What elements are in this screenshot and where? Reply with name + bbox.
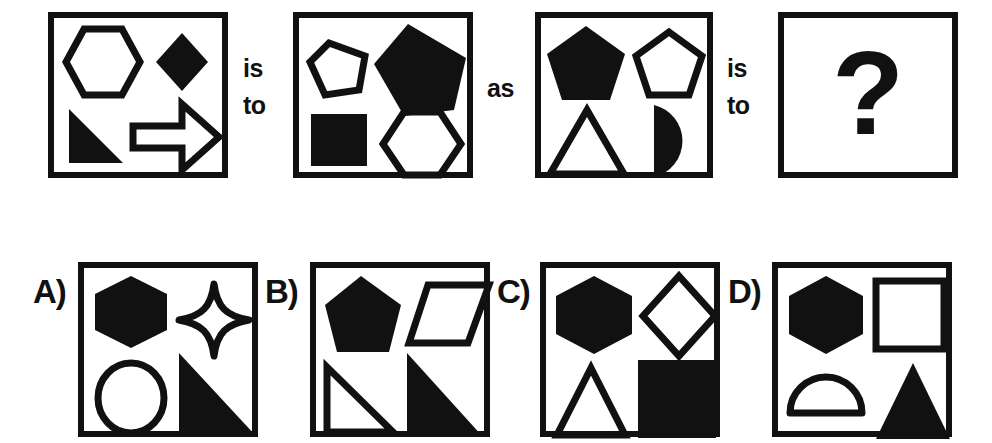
option-a-label: A) xyxy=(33,275,66,308)
shape-hexagon-solid xyxy=(550,272,638,358)
shape-hexagon-outline xyxy=(377,108,467,180)
option-b-label: B) xyxy=(265,275,298,308)
shape-arrow-right-outline xyxy=(126,96,226,178)
connector-line-1: is xyxy=(727,50,771,87)
prompt-panel-4-unknown: ? xyxy=(778,12,958,178)
option-d-label: D) xyxy=(728,275,761,308)
connector-line-2: to xyxy=(727,87,771,124)
shape-pentagon-solid xyxy=(543,22,629,104)
connector-is-to-2: is to xyxy=(727,50,771,124)
shape-hexagon-solid xyxy=(782,272,870,358)
question-mark: ? xyxy=(784,34,952,152)
option-b[interactable] xyxy=(310,262,490,437)
connector-as: as xyxy=(487,70,531,107)
shape-pentagon-solid xyxy=(369,20,473,120)
shape-semicircle-solid xyxy=(633,102,709,180)
connector-line-2: to xyxy=(243,87,287,124)
shape-triangle-outline xyxy=(543,104,631,180)
option-d[interactable] xyxy=(772,262,952,437)
prompt-panel-2 xyxy=(293,12,473,178)
shape-diamond-outline xyxy=(636,270,722,362)
shape-square-solid xyxy=(301,106,377,174)
shape-semicircle-outline xyxy=(782,362,870,428)
shape-pentagon-outline xyxy=(629,24,709,104)
shape-hexagon-outline xyxy=(60,24,146,100)
shape-pentagon-solid xyxy=(320,272,406,356)
shape-right-triangle-outline xyxy=(318,360,402,440)
shape-square-solid xyxy=(632,356,722,442)
shape-diamond-solid xyxy=(146,26,218,98)
shape-parallelogram-outline xyxy=(404,278,494,350)
shape-right-triangle-solid xyxy=(58,100,134,172)
connector-line-1: is xyxy=(243,50,287,87)
shape-pentagon-outline xyxy=(301,36,375,102)
shape-square-outline xyxy=(868,274,952,356)
shape-right-triangle-solid xyxy=(400,348,492,442)
shape-triangle-outline xyxy=(548,362,634,442)
connector-is-to-1: is to xyxy=(243,50,287,124)
shape-hexagon-solid xyxy=(88,272,174,352)
prompt-panel-3 xyxy=(535,12,713,178)
option-a[interactable] xyxy=(78,262,258,437)
connector-line-1: as xyxy=(487,70,531,107)
option-c[interactable] xyxy=(540,262,720,437)
prompt-panel-1 xyxy=(48,12,228,178)
option-c-label: C) xyxy=(497,275,530,308)
shape-circle-outline xyxy=(88,356,174,440)
shape-right-triangle-solid xyxy=(170,348,260,440)
shape-triangle-solid xyxy=(870,358,956,443)
